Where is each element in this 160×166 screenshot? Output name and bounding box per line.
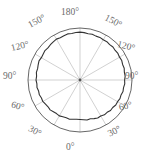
axis-label-0-bottom: 0°	[66, 143, 75, 153]
polar-chart: 180° 150° 120° 90° 60° 30° 0° 30° 60° 90…	[0, 0, 160, 166]
gridline-150deg	[80, 35, 106, 80]
polar-plot-canvas	[0, 0, 160, 166]
axis-label-180-top: 180°	[61, 8, 79, 18]
center-dot	[79, 79, 82, 82]
gridline-120deg	[80, 54, 125, 80]
axis-label-90-right: 90°	[125, 72, 138, 82]
axis-label-90-left: 90°	[3, 72, 16, 82]
gridline-210deg	[54, 35, 80, 80]
gridline-300deg	[35, 80, 80, 106]
data-series-radial-profile	[36, 32, 125, 120]
